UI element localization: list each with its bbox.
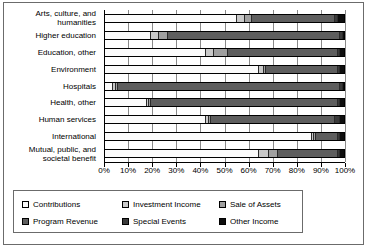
y-axis-label: International [52,132,96,141]
bar-row [104,115,345,124]
bar-row [104,132,345,141]
legend-label-investment-income: Investment Income [133,200,201,209]
y-axis-label: Education, other [38,48,96,57]
x-axis-tick-labels: 0%10%20%30%40%50%60%70%80%90%100% [0,166,367,178]
bar-segment [339,49,344,56]
y-axis-label: Mutual, public, and societal benefit [29,145,96,163]
plot-area: Arts, culture, and humanitiesHigher educ… [0,0,367,175]
bar-segment [213,49,227,56]
bar-segment [337,15,344,22]
bar-segment [339,133,344,140]
legend-item-other-income: Other Income [219,217,278,226]
bar-segment [258,150,268,157]
bar-segment [339,99,344,106]
bar-row [104,82,345,91]
legend-label-other-income: Other Income [230,217,278,226]
bar-segment [315,133,337,140]
legend-label-sale-of-assets: Sale of Assets [230,200,281,209]
bar-row [104,31,345,40]
bar-segment [205,49,212,56]
bar-row [104,149,345,158]
legend-item-special-events: Special Events [122,217,219,226]
legend-item-contributions: Contributions [22,200,122,209]
bar-segment [105,66,258,73]
y-axis-label: Higher education [36,31,96,40]
bar-segment [265,66,337,73]
legend-label-program-revenue: Program Revenue [33,217,98,226]
bar-segment [117,83,339,90]
bar-segment [210,116,334,123]
bar-segment [227,49,337,56]
y-axis-category-labels: Arts, culture, and humanitiesHigher educ… [0,10,100,162]
bar-segment [251,15,335,22]
bar-segment [158,32,168,39]
y-axis-label: Human services [39,115,96,124]
legend-row-2: Program Revenue Special Events Other Inc… [22,213,294,230]
x-tick-label: 100% [330,166,360,176]
y-axis-label: Health, other [50,98,96,107]
bar-row [104,48,345,57]
bar-row [104,65,345,74]
bar-segment [167,32,339,39]
chart-legend: Contributions Investment Income Sale of … [13,190,303,233]
bar-segment [105,116,205,123]
bar-row [104,98,345,107]
bar-segment [339,116,344,123]
bar-segment [150,32,157,39]
bar-segment [105,32,150,39]
y-axis-label: Arts, culture, and humanities [36,9,96,27]
bar-row [104,14,345,23]
legend-label-special-events: Special Events [133,217,186,226]
gridline [345,10,346,162]
legend-swatch-special-events [122,218,129,225]
legend-swatch-investment-income [122,201,129,208]
legend-item-investment-income: Investment Income [122,200,219,209]
y-axis-label: Hospitals [63,82,96,91]
chart-figure: Arts, culture, and humanitiesHigher educ… [0,0,367,251]
bar-segment [339,66,344,73]
legend-item-sale-of-assets: Sale of Assets [219,200,281,209]
bar-segment [105,133,311,140]
bar-segment [342,32,344,39]
y-axis-label: Environment [51,65,96,74]
legend-swatch-sale-of-assets [219,201,226,208]
stacked-bars [104,10,345,162]
legend-item-program-revenue: Program Revenue [22,217,122,226]
bar-segment [105,99,146,106]
bar-segment [105,150,258,157]
bar-segment [277,150,337,157]
bar-segment [236,15,243,22]
bar-segment [105,49,205,56]
bar-segment [150,99,336,106]
legend-swatch-contributions [22,201,29,208]
bar-segment [268,150,278,157]
bar-segment [105,83,112,90]
bar-segment [339,150,344,157]
legend-swatch-other-income [219,218,226,225]
legend-row-1: Contributions Investment Income Sale of … [22,196,294,213]
bar-segment [105,15,236,22]
legend-swatch-program-revenue [22,218,29,225]
legend-label-contributions: Contributions [33,200,80,209]
bar-segment [342,83,344,90]
bar-segment [244,15,251,22]
